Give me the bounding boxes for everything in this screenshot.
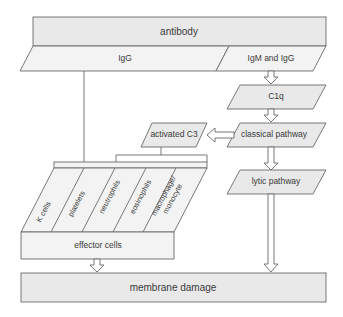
classical-pathway-node: classical pathway [227, 123, 326, 147]
antibody-node: antibody [33, 17, 326, 46]
arrow-down-icon [90, 259, 104, 272]
lytic-pathway-label: lytic pathway [252, 176, 301, 186]
arrow-left-icon [207, 128, 234, 142]
antibody-label: antibody [160, 26, 198, 37]
classical-pathway-label: classical pathway [241, 129, 308, 139]
activated-c3-label: activated C3 [150, 129, 198, 139]
membrane-damage-node: membrane damage [21, 273, 326, 302]
igm-igg-label: IgM and IgG [248, 53, 295, 63]
lytic-pathway-node: lytic pathway [227, 170, 326, 194]
c1q-node: C1q [227, 85, 326, 109]
c1q-label: C1q [268, 91, 284, 101]
arrow-down-icon [264, 109, 278, 122]
igg-node: IgG [20, 46, 229, 71]
cell-types-group: K cells platelets neutrophils eosinophil… [21, 168, 207, 232]
activated-c3-node: activated C3 [141, 123, 207, 147]
antibody-effector-diagram: antibody IgG IgM and IgG C1q classical p… [0, 0, 343, 317]
arrow-down-icon [264, 147, 278, 170]
igg-label: IgG [118, 53, 132, 63]
arrow-down-icon [264, 71, 278, 84]
arrow-down-icon [264, 194, 278, 272]
cell-types-bracket [54, 162, 207, 168]
c3-connector-line [116, 147, 161, 162]
igm-igg-node: IgM and IgG [216, 46, 326, 71]
membrane-damage-label: membrane damage [130, 282, 217, 293]
effector-cells-node: effector cells [21, 232, 174, 259]
effector-cells-label: effector cells [74, 240, 122, 250]
